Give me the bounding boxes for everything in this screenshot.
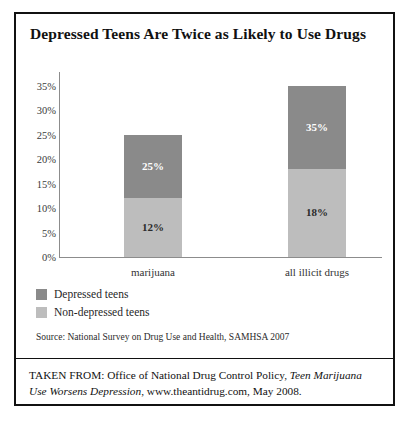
- bar-value-non-depressed: 12%: [124, 221, 182, 233]
- y-axis-tick-10: 10%: [22, 203, 56, 214]
- legend-item-depressed-teens: Depressed teens: [36, 286, 149, 302]
- legend-swatch-icon: [36, 289, 47, 300]
- y-axis-tick-30: 30%: [22, 105, 56, 116]
- legend-label: Non-depressed teens: [54, 306, 149, 318]
- footer-divider: [16, 358, 393, 359]
- footer-prefix: TAKEN FROM: Office of National Drug Cont…: [29, 369, 290, 381]
- y-axis-tick-25: 25%: [22, 129, 56, 140]
- bar-value-non-depressed: 18%: [288, 206, 346, 218]
- bar-value-depressed: 25%: [124, 160, 182, 172]
- bar-group-marijuana: 25%12%: [124, 135, 182, 257]
- bar-group-all-illicit-drugs: 35%18%: [288, 86, 346, 257]
- x-axis-line: [59, 257, 382, 258]
- x-axis-tick-all-illicit-drugs: all illicit drugs: [247, 266, 387, 278]
- y-axis-line: [59, 72, 60, 258]
- figure-frame: Depressed Teens Are Twice as Likely to U…: [14, 12, 395, 406]
- footer-suffix: , www.theantidrug.com, May 2008.: [141, 385, 302, 397]
- y-axis-tick-35: 35%: [22, 81, 56, 92]
- y-axis-tick-0: 0%: [22, 252, 56, 263]
- footer-attribution: TAKEN FROM: Office of National Drug Cont…: [29, 367, 381, 399]
- legend-swatch-icon: [36, 307, 47, 318]
- y-axis-tick-15: 15%: [22, 178, 56, 189]
- chart-plot-area: 0%5%10%15%20%25%30%35% 25%12%35%18% mari…: [16, 14, 397, 264]
- y-axis-tick-5: 5%: [22, 227, 56, 238]
- y-axis-tick-20: 20%: [22, 154, 56, 165]
- chart-legend: Depressed teensNon-depressed teens: [36, 286, 149, 322]
- legend-item-non-depressed-teens: Non-depressed teens: [36, 304, 149, 320]
- bar-value-depressed: 35%: [288, 121, 346, 133]
- source-note: Source: National Survey on Drug Use and …: [36, 332, 289, 342]
- x-axis-tick-marijuana: marijuana: [83, 266, 223, 278]
- legend-label: Depressed teens: [54, 288, 128, 300]
